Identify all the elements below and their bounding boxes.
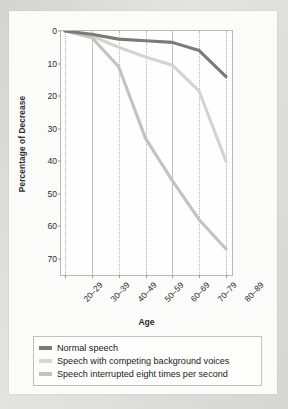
legend-swatch-normal-speech: [39, 346, 52, 350]
figure-card: Percentage of Decrease 01020304050607020…: [9, 11, 277, 394]
legend-item: Speech with competing background voices: [39, 354, 256, 367]
x-axis-tick-mark: [199, 275, 200, 278]
legend-swatch-interrupted-speech: [39, 372, 52, 376]
x-axis-tick-label: 40–49: [135, 280, 158, 304]
y-axis-tick-label: 20: [17, 91, 57, 101]
x-axis-tick-mark: [146, 275, 147, 278]
y-axis-title: Percentage of Decrease: [17, 59, 27, 229]
x-axis-tick-mark: [172, 275, 173, 278]
series-container: [61, 31, 232, 275]
x-axis-tick-mark: [226, 275, 227, 278]
line-chart: Percentage of Decrease 01020304050607020…: [9, 11, 277, 394]
y-axis-tick-label: 0: [17, 26, 57, 36]
x-axis-tick-label: 20–29: [81, 280, 104, 304]
legend-label-normal-speech: Normal speech: [57, 343, 118, 353]
x-axis-tick-label: 60–69: [189, 280, 212, 304]
x-axis-tick-mark: [65, 275, 66, 278]
x-axis-tick-label: 50–59: [162, 280, 185, 304]
legend-label-competing-voices: Speech with competing background voices: [57, 356, 229, 366]
x-axis-tick-mark: [119, 275, 120, 278]
plot-area: 01020304050607020–2930–3940–4950–5960–69…: [60, 30, 233, 276]
series-line: [65, 31, 226, 249]
page-background: Percentage of Decrease 01020304050607020…: [0, 0, 288, 409]
x-axis-tick-label: 30–39: [108, 280, 131, 304]
legend-item: Normal speech: [39, 341, 256, 354]
plot-wrapper: 01020304050607020–2930–3940–4950–5960–69…: [60, 30, 233, 276]
legend: Normal speech Speech with competing back…: [33, 336, 262, 386]
x-axis-tick-label: 80–89: [242, 280, 265, 304]
y-axis-tick-label: 50: [17, 189, 57, 199]
y-axis-tick-label: 30: [17, 124, 57, 134]
y-axis-tick-label: 60: [17, 221, 57, 231]
legend-label-interrupted-speech: Speech interrupted eight times per secon…: [57, 369, 228, 379]
x-axis-title: Age: [60, 317, 233, 327]
series-line: [65, 31, 226, 161]
legend-item: Speech interrupted eight times per secon…: [39, 367, 256, 380]
legend-swatch-competing-voices: [39, 359, 52, 363]
x-axis-tick-mark: [92, 275, 93, 278]
x-axis-tick-label: 70–79: [216, 280, 239, 304]
y-axis-tick-label: 40: [17, 156, 57, 166]
y-axis-tick-label: 10: [17, 59, 57, 69]
y-axis-tick-label: 70: [17, 254, 57, 264]
